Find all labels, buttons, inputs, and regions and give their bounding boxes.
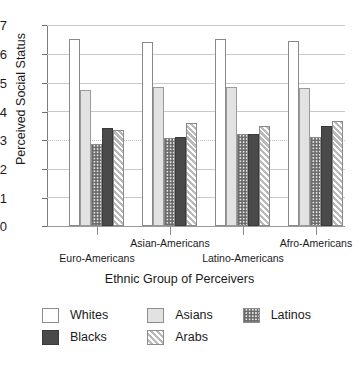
chart-legend: Whites Asians Latinos Blacks Arabs <box>42 304 332 348</box>
bar-group-afro-americans <box>288 25 344 226</box>
y-tick-label-4: 4 <box>0 106 7 119</box>
legend-row-1: Whites Asians Latinos <box>42 304 332 326</box>
y-tick-label-3: 3 <box>0 134 7 147</box>
legend-label-blacks: Blacks <box>70 330 107 344</box>
x-axis-title: Ethnic Group of Perceivers <box>0 272 359 286</box>
x-tick-afro-americans <box>316 226 317 235</box>
y-tick-label-6: 6 <box>0 48 7 61</box>
y-axis-title: Perceived Social Status <box>14 9 28 189</box>
legend-item-asians: Asians <box>147 308 242 323</box>
legend-row-2: Blacks Arabs <box>42 326 332 348</box>
bar-afro-americans-latinos <box>310 137 321 226</box>
bar-afro-americans-whites <box>288 41 299 226</box>
legend-item-arabs: Arabs <box>147 330 242 345</box>
y-tick-label-0: 0 <box>0 220 7 233</box>
bar-group-asian-americans <box>142 25 198 226</box>
bar-asian-americans-blacks <box>175 137 186 226</box>
x-tick-asian-americans <box>170 226 171 235</box>
bar-afro-americans-arabs <box>332 121 343 226</box>
x-tick-latino-americans <box>243 226 244 235</box>
x-group-label-latino-americans: Latino-Americans <box>168 253 318 264</box>
legend-item-blacks: Blacks <box>42 330 147 345</box>
legend-label-latinos: Latinos <box>271 308 311 322</box>
legend-swatch-arabs-icon <box>147 330 164 345</box>
legend-item-whites: Whites <box>42 308 147 323</box>
x-axis-line <box>47 226 345 227</box>
bar-euro-americans-arabs <box>113 130 124 226</box>
bar-afro-americans-asians <box>299 88 310 226</box>
legend-swatch-asians-icon <box>147 308 164 323</box>
x-group-label-asian-americans: Asian-Americans <box>95 238 245 249</box>
plot-area <box>47 25 345 226</box>
bar-latino-americans-asians <box>226 87 237 226</box>
x-tick-euro-americans <box>97 226 98 235</box>
bar-euro-americans-latinos <box>91 144 102 226</box>
y-tick-label-7: 7 <box>0 19 7 32</box>
legend-label-asians: Asians <box>175 308 213 322</box>
bar-latino-americans-latinos <box>237 134 248 226</box>
bar-asian-americans-latinos <box>164 138 175 226</box>
y-tick-label-2: 2 <box>0 163 7 176</box>
bar-latino-americans-whites <box>215 39 226 226</box>
y-tick-label-1: 1 <box>0 192 7 205</box>
legend-swatch-whites-icon <box>42 308 59 323</box>
legend-item-latinos: Latinos <box>243 308 332 323</box>
x-group-label-euro-americans: Euro-Americans <box>22 253 172 264</box>
bar-group-euro-americans <box>69 25 125 226</box>
bar-euro-americans-whites <box>69 39 80 226</box>
bar-euro-americans-blacks <box>102 128 113 226</box>
bar-asian-americans-whites <box>142 42 153 226</box>
legend-swatch-latinos-icon <box>243 308 260 323</box>
bar-asian-americans-arabs <box>186 123 197 226</box>
y-tick-label-5: 5 <box>0 77 7 90</box>
bar-afro-americans-blacks <box>321 126 332 226</box>
bar-latino-americans-arabs <box>259 126 270 226</box>
x-group-label-afro-americans: Afro-Americans <box>241 238 359 249</box>
bar-group-latino-americans <box>215 25 271 226</box>
bar-latino-americans-blacks <box>248 134 259 226</box>
legend-swatch-blacks-icon <box>42 330 59 345</box>
bar-asian-americans-asians <box>153 87 164 226</box>
legend-label-whites: Whites <box>70 308 108 322</box>
bar-euro-americans-asians <box>80 90 91 226</box>
legend-label-arabs: Arabs <box>175 330 208 344</box>
bar-chart-figure: Perceived Social Status 7 6 5 4 3 2 1 0 <box>0 0 359 373</box>
